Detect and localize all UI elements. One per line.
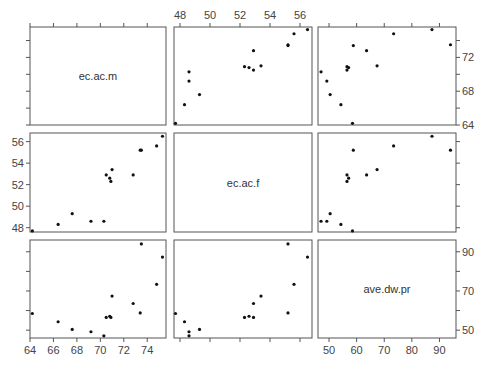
data-point (449, 149, 452, 152)
x-tick-label: 60 (351, 344, 363, 356)
data-point (198, 328, 201, 331)
data-point (102, 334, 105, 337)
y-tick-label: 56 (12, 136, 24, 148)
data-point (392, 32, 395, 35)
y-tick-label: 50 (12, 200, 24, 212)
data-point (110, 294, 113, 297)
data-point (140, 242, 143, 245)
y-tick-label: 90 (462, 246, 474, 258)
data-point (139, 311, 142, 314)
data-point (430, 28, 433, 31)
y-tick-label: 68 (462, 85, 474, 97)
x-tick-label: 74 (141, 344, 153, 356)
data-point (252, 316, 255, 319)
data-point (71, 212, 74, 215)
data-point (155, 283, 158, 286)
data-point (345, 173, 348, 176)
data-point (365, 49, 368, 52)
data-point (430, 135, 433, 138)
panel-frame-0-1 (174, 27, 312, 125)
data-point (243, 65, 246, 68)
x-tick-label: 90 (433, 344, 445, 356)
data-point (329, 212, 332, 215)
panel-frame-1-0 (30, 133, 166, 232)
data-point (286, 242, 289, 245)
data-point (252, 302, 255, 305)
data-point (140, 149, 143, 152)
data-point (187, 334, 190, 337)
data-point (259, 64, 262, 67)
data-point (31, 312, 34, 315)
data-point (109, 180, 112, 183)
panel-frame-1-2 (318, 133, 456, 232)
y-tick-label: 54 (12, 157, 24, 169)
data-point (161, 135, 164, 138)
x-tick-label: 50 (204, 9, 216, 21)
x-tick-label: 68 (71, 344, 83, 356)
data-point (102, 220, 105, 223)
data-point (108, 177, 111, 180)
data-point (57, 223, 60, 226)
x-tick-label: 50 (323, 344, 335, 356)
x-tick-label: 66 (47, 344, 59, 356)
y-tick-label: 64 (462, 119, 474, 131)
data-point (198, 93, 201, 96)
data-point (105, 316, 108, 319)
data-point (252, 68, 255, 71)
data-point (352, 149, 355, 152)
data-point (243, 316, 246, 319)
data-point (365, 173, 368, 176)
data-point (183, 103, 186, 106)
data-point (319, 70, 322, 73)
data-point (345, 65, 348, 68)
data-point (247, 66, 250, 69)
data-point (161, 255, 164, 258)
x-tick-label: 54 (264, 9, 276, 21)
data-point (252, 49, 255, 52)
data-point (57, 320, 60, 323)
x-tick-label: 64 (24, 344, 36, 356)
x-tick-label: 70 (94, 344, 106, 356)
data-point (155, 144, 158, 147)
data-point (449, 43, 452, 46)
data-point (306, 255, 309, 258)
data-point (351, 229, 354, 232)
data-point (89, 220, 92, 223)
data-point (347, 177, 350, 180)
data-point (392, 144, 395, 147)
data-point (187, 70, 190, 73)
data-point (109, 316, 112, 319)
data-point (174, 122, 177, 125)
data-point (110, 168, 113, 171)
panel-frame-2-1 (174, 240, 312, 338)
data-point (259, 294, 262, 297)
data-point (71, 328, 74, 331)
data-point (375, 168, 378, 171)
data-point (31, 229, 34, 232)
data-point (187, 79, 190, 82)
data-point (89, 330, 92, 333)
data-point (339, 103, 342, 106)
data-point (319, 220, 322, 223)
data-point (352, 44, 355, 47)
data-point (132, 302, 135, 305)
data-point (292, 283, 295, 286)
data-point (375, 64, 378, 67)
data-point (105, 173, 108, 176)
data-point (339, 223, 342, 226)
x-tick-label: 52 (234, 9, 246, 21)
data-point (247, 315, 250, 318)
y-tick-label: 72 (462, 51, 474, 63)
data-point (325, 79, 328, 82)
panel-frame-0-2 (318, 27, 456, 125)
x-tick-label: 56 (294, 9, 306, 21)
variable-label-ec-ac-m: ec.ac.m (79, 70, 118, 82)
scatterplot-matrix: ec.ac.mec.ac.fave.dw.pr64666870727448505… (0, 0, 485, 368)
data-point (132, 173, 135, 176)
x-tick-label: 48 (174, 9, 186, 21)
data-point (174, 312, 177, 315)
data-point (183, 320, 186, 323)
y-tick-label: 50 (462, 324, 474, 336)
variable-label-ec-ac-f: ec.ac.f (227, 177, 260, 189)
data-point (306, 28, 309, 31)
